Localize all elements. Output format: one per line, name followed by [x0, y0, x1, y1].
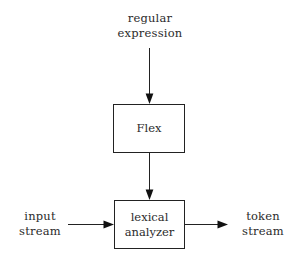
- flex-pipeline-diagram: regular expression input stream token st…: [0, 0, 299, 261]
- edge-flex-to-lexical-analyzer: [146, 153, 154, 200]
- edge-regular-expression-to-flex: [146, 48, 154, 104]
- lexical-analyzer-node: lexical analyzer: [114, 200, 185, 249]
- lexical-analyzer-node-label-line-1: lexical: [125, 210, 175, 225]
- flex-node-label: Flex: [137, 121, 162, 136]
- flex-node: Flex: [113, 104, 185, 153]
- edge-input-stream-to-lexical-analyzer: [68, 221, 114, 229]
- lexical-analyzer-node-label-line-2: analyzer: [125, 225, 175, 240]
- lexical-analyzer-node-label: lexical analyzer: [125, 210, 175, 240]
- edge-lexical-analyzer-to-token-stream: [185, 221, 228, 229]
